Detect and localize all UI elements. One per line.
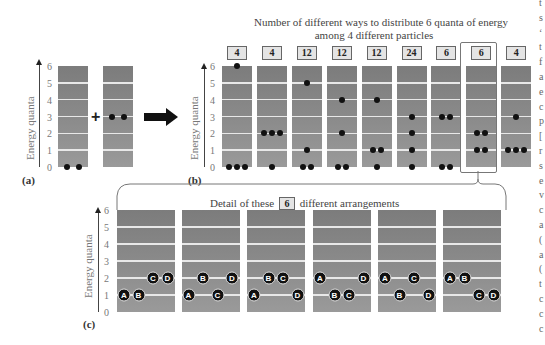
particle-c: C (408, 272, 421, 285)
energy-level-line (103, 133, 133, 135)
edge-glyph: c (539, 204, 543, 215)
particle-dot (261, 130, 267, 136)
edge-glyph: ( (539, 263, 542, 274)
particle-dot (409, 114, 415, 120)
plus-sign: + (91, 108, 100, 126)
particle-dot (513, 147, 519, 153)
energy-level-line (58, 99, 88, 101)
energy-level-line (378, 226, 436, 228)
panel-label-a: (a) (22, 174, 35, 186)
detail-prefix: Detail of these (210, 197, 274, 209)
y-tick-label: 5 (42, 77, 52, 88)
detail-count-badge: 6 (279, 197, 295, 210)
energy-column (327, 66, 357, 167)
energy-level-line (327, 149, 357, 151)
energy-column (103, 66, 133, 167)
particle-dot (76, 164, 82, 170)
edge-glyph: r (539, 145, 542, 156)
energy-level-line (292, 133, 322, 135)
particle-d: D (161, 272, 174, 285)
edge-glyph: e (539, 86, 543, 97)
panel-label-c: (c) (83, 318, 95, 330)
edge-glyph: f (539, 56, 542, 67)
detail-suffix: different arrangements (300, 197, 400, 209)
ways-count-badge: 6 (436, 46, 456, 60)
edge-glyph: a (539, 219, 543, 230)
energy-level-line (431, 133, 461, 135)
energy-column (431, 66, 461, 167)
energy-level-line (443, 243, 501, 245)
energy-level-line (58, 82, 88, 84)
energy-level-line (501, 82, 531, 84)
particle-dot (513, 114, 519, 120)
ways-count-badge: 12 (332, 46, 352, 60)
particle-dot (378, 147, 384, 153)
particle-dot (521, 147, 527, 153)
energy-level-line (327, 116, 357, 118)
ways-count-badge: 24 (402, 46, 422, 60)
y-tick-label: 3 (42, 111, 52, 122)
particle-dot (339, 97, 345, 103)
particle-c: C (147, 272, 160, 285)
energy-level-line (103, 82, 133, 84)
energy-level-line (182, 243, 240, 245)
energy-level-line (257, 116, 287, 118)
y-axis-label-c: Energy quanta (82, 234, 94, 298)
energy-column (257, 66, 287, 167)
energy-level-line (247, 226, 305, 228)
y-tick-label: 5 (99, 222, 109, 233)
energy-level-line (397, 99, 427, 101)
ways-count-badge: 4 (227, 46, 247, 60)
energy-level-line (292, 99, 322, 101)
edge-glyph: t (539, 41, 542, 52)
particle-a: A (444, 272, 457, 285)
energy-level-line (362, 149, 392, 151)
y-tick-label: 5 (205, 77, 215, 88)
edge-glyph: a (539, 249, 543, 260)
panel-b-title-line1: Number of different ways to distribute 6… (254, 16, 494, 28)
y-tick-label: 3 (99, 256, 109, 267)
energy-level-line (257, 82, 287, 84)
energy-column (362, 66, 392, 167)
particle-a: A (379, 272, 392, 285)
y-tick-label: 4 (205, 94, 215, 105)
energy-level-line (501, 133, 531, 135)
ways-count-badge: 12 (367, 46, 387, 60)
energy-level-line (257, 149, 287, 151)
energy-level-line (222, 116, 252, 118)
y-axis-label-a: Energy quanta (24, 96, 36, 160)
energy-level-line (58, 149, 88, 151)
energy-level-line (58, 133, 88, 135)
particle-dot (439, 114, 445, 120)
particle-dot (370, 147, 376, 153)
energy-level-line (501, 99, 531, 101)
energy-level-line (103, 149, 133, 151)
energy-level-line (313, 243, 371, 245)
energy-column (222, 66, 252, 167)
particle-d: D (291, 289, 304, 302)
energy-level-line (222, 149, 252, 151)
edge-glyph: t (539, 278, 542, 289)
edge-glyph: [ (539, 130, 542, 141)
particle-b: B (197, 272, 210, 285)
energy-column (58, 66, 88, 167)
particle-dot (121, 114, 127, 120)
energy-level-line (222, 133, 252, 135)
particle-c: C (277, 272, 290, 285)
edge-glyph: ‘ (539, 27, 542, 38)
energy-level-line (431, 116, 461, 118)
y-tick-label: 4 (42, 94, 52, 105)
edge-glyph: t (539, 0, 542, 8)
energy-level-line (431, 99, 461, 101)
energy-level-line (362, 133, 392, 135)
edge-glyph: c (539, 101, 543, 112)
energy-level-line (443, 260, 501, 262)
particle-dot (447, 114, 453, 120)
y-tick-label: 1 (205, 145, 215, 156)
edge-glyph: a (539, 71, 543, 82)
energy-level-line (117, 226, 175, 228)
energy-level-line (117, 243, 175, 245)
particle-d: D (357, 272, 370, 285)
y-tick-label: 2 (99, 273, 109, 284)
energy-level-line (58, 116, 88, 118)
